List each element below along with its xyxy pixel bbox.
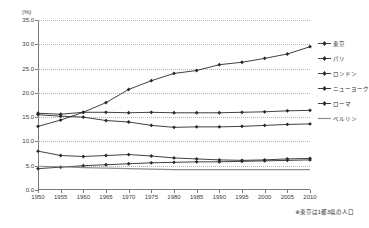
x-axis-tick-mark (151, 190, 152, 193)
y-axis-tick-label: 30.0 (22, 41, 34, 47)
series-line (38, 166, 310, 169)
x-axis-tick-mark (106, 190, 107, 193)
data-point-marker (81, 110, 85, 114)
series-layer (38, 20, 310, 190)
data-point-marker (240, 110, 244, 114)
data-point-marker (195, 69, 199, 73)
data-point-marker (104, 101, 108, 105)
data-point-marker (59, 154, 63, 158)
x-axis-tick-label: 1965 (99, 194, 112, 200)
y-axis-tick-label: 25.0 (22, 66, 34, 72)
data-point-marker (81, 115, 85, 119)
series-ニューヨーク (36, 113, 312, 129)
legend-diamond-icon (318, 84, 331, 93)
x-axis-tick-label: 2010 (303, 194, 316, 200)
x-axis-tick-label: 1995 (235, 194, 248, 200)
legend-diamond-icon (318, 69, 331, 78)
legend: 東京パリロンドンニューヨークローマベルリン (318, 36, 362, 126)
legend-item: ローマ (318, 96, 362, 111)
data-point-marker (81, 164, 85, 168)
footnote: ※東京は1都3県の人口 (295, 208, 354, 216)
legend-line-icon (318, 114, 331, 123)
y-axis-tick-label: 20.0 (22, 90, 34, 96)
legend-label: ロンドン (333, 70, 357, 78)
data-point-marker (149, 79, 153, 83)
data-point-marker (308, 108, 312, 112)
x-axis-tick-mark (287, 190, 288, 193)
legend-item: パリ (318, 51, 362, 66)
data-point-marker (149, 110, 153, 114)
x-axis-tick-label: 1950 (31, 194, 44, 200)
data-point-marker (36, 167, 40, 171)
x-axis-tick-mark (129, 190, 130, 193)
data-point-marker (263, 56, 267, 60)
data-point-marker (172, 125, 176, 129)
x-axis-tick-label: 1955 (54, 194, 67, 200)
series-ベルリン (38, 166, 310, 169)
y-axis-tick-label: 5.0 (26, 163, 34, 169)
data-point-marker (127, 88, 131, 92)
data-point-marker (172, 111, 176, 115)
x-axis-tick-mark (310, 190, 311, 193)
data-point-marker (195, 125, 199, 129)
x-axis-tick-label: 1980 (167, 194, 180, 200)
legend-label: 東京 (333, 40, 345, 48)
x-axis-tick-mark (265, 190, 266, 193)
data-point-marker (217, 125, 221, 129)
data-point-marker (240, 60, 244, 64)
legend-label: ローマ (333, 100, 351, 108)
legend-diamond-icon (318, 39, 331, 48)
plot-area: 0.05.010.015.020.025.030.035.0 195019551… (38, 20, 310, 190)
data-point-marker (149, 161, 153, 165)
data-point-marker (36, 149, 40, 153)
data-point-marker (195, 160, 199, 164)
x-axis-tick-label: 1985 (190, 194, 203, 200)
series-東京 (36, 45, 312, 128)
data-point-marker (172, 72, 176, 76)
y-axis-tick-label: 0.0 (26, 187, 34, 193)
legend-item: ニューヨーク (318, 81, 362, 96)
legend-label: パリ (333, 55, 345, 63)
x-axis-tick-label: 2000 (258, 194, 271, 200)
x-axis-tick-label: 1990 (213, 194, 226, 200)
data-point-marker (172, 160, 176, 164)
data-point-marker (217, 160, 221, 164)
data-point-marker (308, 122, 312, 126)
x-axis-tick-mark (174, 190, 175, 193)
x-axis-tick-label: 1970 (122, 194, 135, 200)
data-point-marker (127, 111, 131, 115)
x-axis-tick-label: 2005 (281, 194, 294, 200)
legend-item: ベルリン (318, 111, 362, 126)
data-point-marker (127, 153, 131, 157)
data-point-marker (308, 45, 312, 49)
legend-item: 東京 (318, 36, 362, 51)
x-axis-tick-mark (197, 190, 198, 193)
legend-diamond-icon (318, 99, 331, 108)
x-axis-tick-label: 1975 (145, 194, 158, 200)
data-point-marker (195, 111, 199, 115)
legend-item: ロンドン (318, 66, 362, 81)
data-point-marker (217, 63, 221, 67)
data-point-marker (285, 123, 289, 127)
x-axis-tick-label: 1960 (77, 194, 90, 200)
x-axis-tick-mark (83, 190, 84, 193)
data-point-marker (59, 114, 63, 118)
data-point-marker (263, 124, 267, 128)
data-point-marker (36, 124, 40, 128)
y-axis-tick-label: 35.0 (22, 17, 34, 23)
data-point-marker (59, 118, 63, 122)
x-axis-tick-mark (242, 190, 243, 193)
y-axis-tick-label: 15.0 (22, 114, 34, 120)
data-point-marker (285, 109, 289, 113)
data-point-marker (81, 155, 85, 159)
legend-diamond-icon (318, 54, 331, 63)
series-パリ (36, 108, 312, 116)
legend-label: ベルリン (333, 115, 357, 123)
data-point-marker (104, 154, 108, 158)
data-point-marker (217, 111, 221, 115)
data-point-marker (127, 120, 131, 124)
data-point-marker (172, 156, 176, 160)
data-point-marker (285, 52, 289, 56)
data-point-marker (127, 162, 131, 166)
data-point-marker (149, 124, 153, 128)
